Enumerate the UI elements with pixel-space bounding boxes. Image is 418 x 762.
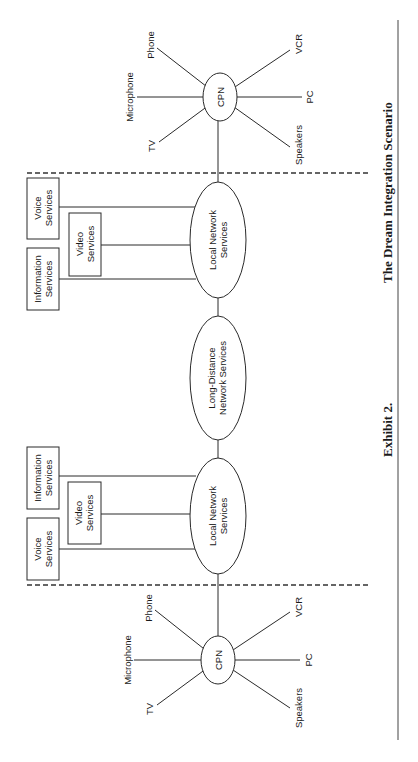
top-local-services: Voice Services Video Services Informatio… xyxy=(27,178,246,310)
caption-label: Exhibit 2. xyxy=(380,403,395,457)
voice-services-line1-top: Voice xyxy=(32,196,43,219)
information-services-line1-top: Information xyxy=(32,255,43,303)
video-services-line1-top: Video xyxy=(74,232,85,256)
cpn-label-bottom: CPN xyxy=(213,650,224,670)
voice-services-line2-bottom: Services xyxy=(43,531,54,568)
figure-caption: The Dream Integration Scenario Exhibit 2… xyxy=(380,102,395,457)
local-network-line2-top: Services xyxy=(218,222,229,259)
voice-services-line2-top: Services xyxy=(43,190,54,227)
bottom-local-services: Information Services Video Services Voic… xyxy=(27,447,246,580)
video-services-line1-bottom: Video xyxy=(73,501,84,525)
device-pc-bottom: PC xyxy=(303,653,314,666)
local-network-line1-bottom: Local Network xyxy=(207,486,218,546)
dream-integration-diagram: CPN Phone Microphone TV VCR PC Speakers … xyxy=(0,0,418,762)
device-vcr-bottom: VCR xyxy=(293,597,304,617)
device-speakers-bottom: Speakers xyxy=(293,688,304,728)
caption-title: The Dream Integration Scenario xyxy=(380,102,395,283)
device-tv-top: TV xyxy=(146,139,157,152)
device-phone-top: Phone xyxy=(145,31,156,58)
long-distance-network: Long-Distance Network Services xyxy=(190,316,246,440)
device-speakers-top: Speakers xyxy=(293,125,304,165)
long-distance-line1: Long-Distance xyxy=(206,347,217,408)
video-services-line2-top: Services xyxy=(85,226,96,263)
device-vcr-top: VCR xyxy=(293,34,304,54)
device-microphone-bottom: Microphone xyxy=(122,635,133,685)
local-network-line2-bottom: Services xyxy=(218,498,229,535)
long-distance-line2: Network Services xyxy=(217,341,228,415)
information-services-line2-top: Services xyxy=(43,261,54,298)
video-services-line2-bottom: Services xyxy=(84,495,95,532)
cpn-label-top: CPN xyxy=(215,87,226,107)
device-pc-top: PC xyxy=(304,90,315,103)
voice-services-line1-bottom: Voice xyxy=(32,537,43,560)
device-phone-bottom: Phone xyxy=(143,594,154,621)
top-premises-network: CPN Phone Microphone TV VCR PC Speakers xyxy=(124,31,315,165)
local-network-line1-top: Local Network xyxy=(207,210,218,270)
information-services-line1-bottom: Information xyxy=(32,454,43,502)
device-microphone-top: Microphone xyxy=(124,72,135,122)
device-tv-bottom: TV xyxy=(144,702,155,715)
information-services-line2-bottom: Services xyxy=(43,460,54,497)
